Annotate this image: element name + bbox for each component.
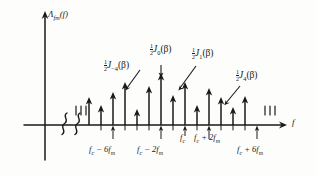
x-tick-label-fc-minus-2fm: fc − 2fm (137, 145, 163, 156)
tick-pointer-fc-plus-6fm (255, 126, 259, 140)
fraction-one-half: 12 (192, 47, 195, 61)
x-axis-label: f (292, 118, 295, 127)
fm-spectrum-figure: Λfm(f) f 12J−4(β) 12J0(β) 12J1(β) 12J4(β… (0, 0, 316, 176)
bessel-order: −4 (111, 65, 118, 72)
bessel-arg: (β) (202, 48, 213, 58)
annotation-j-4: 12J4(β) (236, 69, 258, 83)
x-tick-label-fc-minus-6fm: fc − 6fm (89, 145, 115, 156)
bessel-arg: (β) (246, 70, 257, 80)
axis-break-2 (75, 113, 80, 135)
leader-j-0 (159, 65, 164, 78)
spectral-impulse-group (86, 73, 248, 125)
x-tick-label-fc-plus-2fm: fc + 2fm (194, 133, 220, 144)
leader-j-minus-4 (125, 70, 140, 90)
leader-j-1 (178, 66, 196, 90)
leader-j-4 (224, 86, 240, 105)
annotation-leaders (125, 65, 240, 105)
fraction-one-half: 12 (236, 69, 239, 83)
y-axis-label-arg: (f) (60, 9, 69, 19)
annotation-j-1: 12J1(β) (192, 47, 214, 61)
ellipsis-ticks-left (76, 106, 86, 115)
bessel-arg: (β) (118, 60, 129, 70)
fraction-one-half: 12 (150, 43, 153, 57)
axis-break-1 (62, 113, 67, 135)
x-tick-label-fc: fc (180, 133, 185, 144)
annotation-j-minus-4: 12J−4(β) (104, 59, 129, 73)
y-axis-label: Λfm(f) (48, 10, 68, 21)
x-tick-label-fc-plus-6fm: fc + 6fm (237, 145, 263, 156)
tick-pointer-fc-minus-6fm (111, 126, 115, 140)
fraction-one-half: 12 (104, 59, 107, 73)
ellipsis-ticks-right (265, 106, 275, 115)
tick-pointer-fc-minus-2fm (159, 126, 163, 140)
bessel-arg: (β) (160, 44, 171, 54)
annotation-j-0: 12J0(β) (150, 43, 172, 57)
